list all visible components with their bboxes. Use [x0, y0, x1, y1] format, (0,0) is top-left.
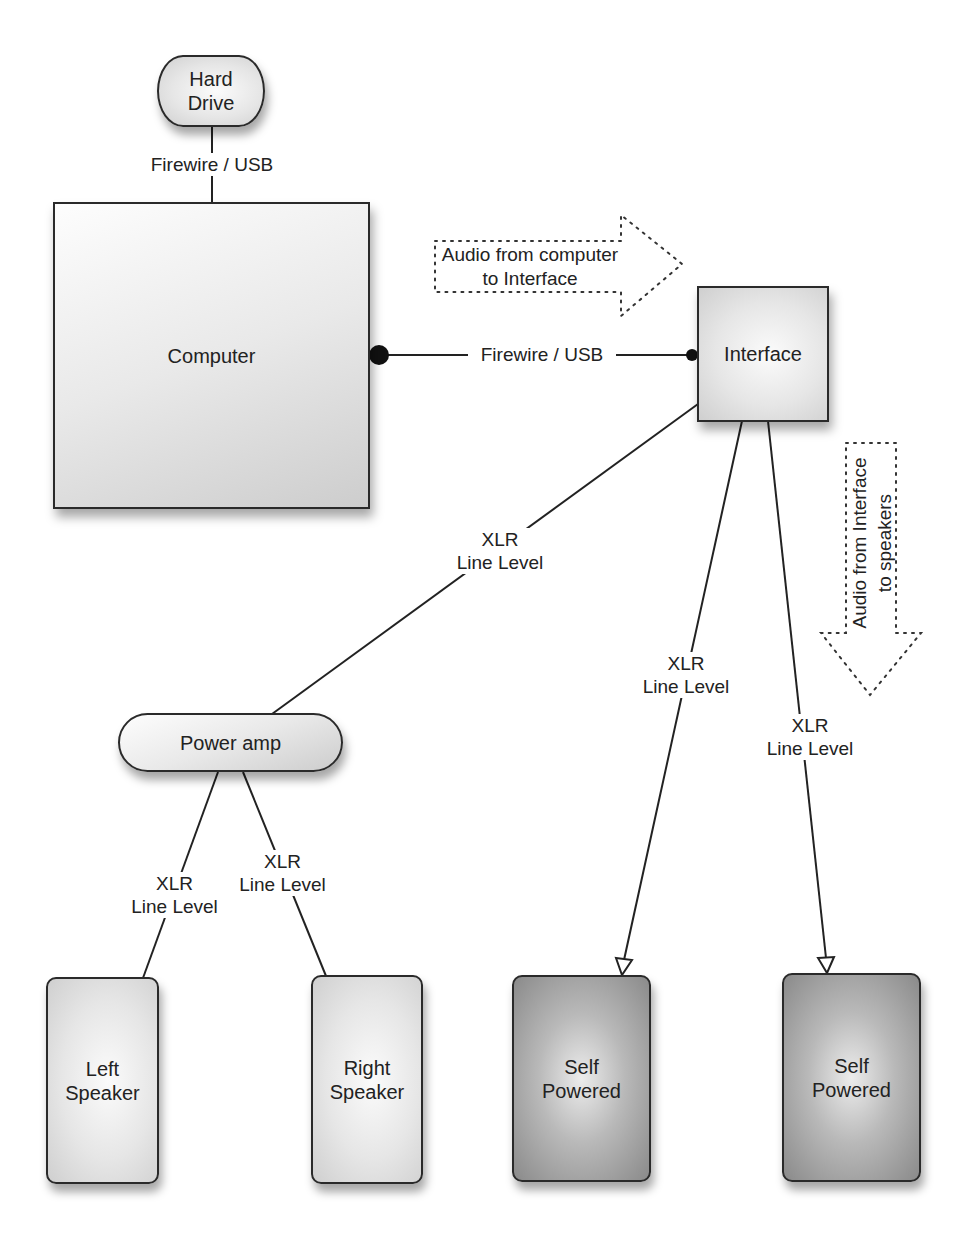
- self-powered-2-label-line2: Powered: [812, 1078, 891, 1102]
- interface-label: Interface: [724, 342, 802, 366]
- left-speaker-node[interactable]: Left Speaker: [46, 977, 159, 1184]
- connector-interface-self2: [768, 421, 826, 958]
- self-powered-speaker-1-node[interactable]: Self Powered: [512, 975, 651, 1182]
- amp-right-connection-label: XLR Line Level: [230, 850, 335, 896]
- amp-right-label-line2: Line Level: [230, 873, 335, 896]
- interface-self1-label-line2: Line Level: [631, 675, 741, 698]
- interface-self1-connection-label: XLR Line Level: [631, 652, 741, 698]
- drive-computer-connection-label: Firewire / USB: [142, 153, 282, 176]
- computer-interface-connection-label: Firewire / USB: [468, 343, 616, 366]
- self-powered-speaker-2-node[interactable]: Self Powered: [782, 973, 921, 1182]
- power-amp-node[interactable]: Power amp: [118, 713, 343, 772]
- amp-left-label-line2: Line Level: [122, 895, 227, 918]
- self-powered-1-label-line2: Powered: [542, 1079, 621, 1103]
- interface-self2-connection-label: XLR Line Level: [755, 714, 865, 760]
- computer-label: Computer: [168, 344, 256, 368]
- interface-self1-label-line1: XLR: [631, 652, 741, 675]
- amp-left-connection-label: XLR Line Level: [122, 872, 227, 918]
- flow-arrow-down-text: Audio from Interface to speakers: [847, 448, 897, 638]
- arrowhead-self2: [818, 957, 834, 973]
- power-amp-label: Power amp: [180, 731, 281, 755]
- arrowhead-self1: [616, 958, 632, 975]
- interface-self2-label-line2: Line Level: [755, 737, 865, 760]
- hard-drive-label-line2: Drive: [188, 91, 235, 115]
- right-speaker-label-line2: Speaker: [330, 1080, 405, 1104]
- amp-left-label-line1: XLR: [122, 872, 227, 895]
- flow-arrow-right-line1: Audio from computer: [440, 243, 620, 267]
- self-powered-2-label-line1: Self: [834, 1054, 868, 1078]
- interface-amp-label-line1: XLR: [440, 528, 560, 551]
- right-speaker-node[interactable]: Right Speaker: [311, 975, 423, 1184]
- flow-arrow-down-line2: to speakers: [872, 448, 897, 638]
- left-speaker-label-line1: Left: [86, 1057, 119, 1081]
- hard-drive-node[interactable]: Hard Drive: [157, 55, 265, 127]
- left-speaker-label-line2: Speaker: [65, 1081, 140, 1105]
- interface-self2-label-line1: XLR: [755, 714, 865, 737]
- flow-arrow-right-line2: to Interface: [440, 267, 620, 291]
- computer-node[interactable]: Computer: [53, 202, 370, 509]
- right-speaker-label-line1: Right: [344, 1056, 391, 1080]
- connector-dot-large: [369, 345, 389, 365]
- flow-arrow-right-text: Audio from computer to Interface: [440, 243, 620, 291]
- self-powered-1-label-line1: Self: [564, 1055, 598, 1079]
- interface-amp-label-line2: Line Level: [440, 551, 560, 574]
- interface-amp-connection-label: XLR Line Level: [440, 528, 560, 574]
- hard-drive-label-line1: Hard: [189, 67, 232, 91]
- amp-right-label-line1: XLR: [230, 850, 335, 873]
- flow-arrow-down-line1: Audio from Interface: [847, 448, 872, 638]
- interface-node[interactable]: Interface: [697, 286, 829, 422]
